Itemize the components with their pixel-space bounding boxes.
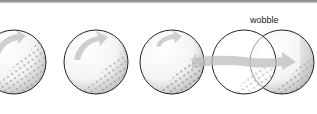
wobble-label: wobble bbox=[250, 15, 279, 25]
golf-ball-2 bbox=[64, 30, 140, 114]
golf-ball-1 bbox=[0, 30, 60, 114]
golf-ball-3 bbox=[140, 30, 212, 114]
